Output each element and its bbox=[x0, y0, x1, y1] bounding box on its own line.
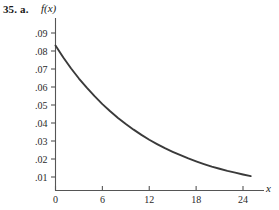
x-tick-label: 0 bbox=[53, 194, 58, 205]
x-tick-label: 6 bbox=[100, 194, 105, 205]
y-tick-labels: .09.08.07.06.05.04.03.02.01 bbox=[35, 28, 48, 183]
y-tick-label: .04 bbox=[35, 118, 48, 129]
x-tick-label: 12 bbox=[144, 194, 154, 205]
x-tick-labels: 06121824 bbox=[53, 194, 248, 205]
y-tick-label: .07 bbox=[35, 64, 48, 75]
data-curve bbox=[56, 46, 251, 177]
y-tick-label: .05 bbox=[35, 100, 48, 111]
y-tick-label: .03 bbox=[35, 136, 48, 147]
figure-container: 35.a. f(x) x .09.08.07.06.05.04.03.02.01… bbox=[0, 0, 279, 210]
y-tick-label: .06 bbox=[35, 82, 48, 93]
y-tick-label: .08 bbox=[35, 46, 48, 57]
y-tick-label: .02 bbox=[35, 154, 48, 165]
y-tick-label: .01 bbox=[35, 172, 48, 183]
plot-area: .09.08.07.06.05.04.03.02.01 06121824 bbox=[0, 0, 279, 210]
y-tick-label: .09 bbox=[35, 28, 48, 39]
x-tick-label: 24 bbox=[238, 194, 248, 205]
curve-path bbox=[56, 46, 251, 177]
x-tick-label: 18 bbox=[191, 194, 201, 205]
